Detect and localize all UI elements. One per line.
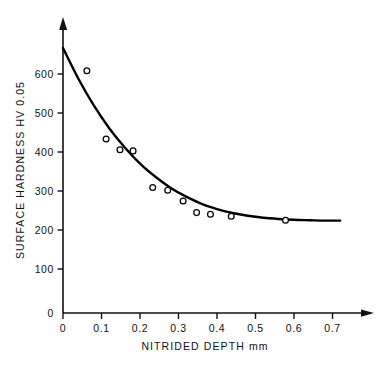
x-tick-label-0p7: 0.7	[324, 322, 340, 334]
data-point	[130, 148, 136, 154]
data-point	[150, 185, 156, 191]
data-point	[103, 136, 109, 142]
y-axis-title: SURFACE HARDNESS HV 0.05	[14, 81, 26, 259]
fitted-curve	[63, 48, 340, 221]
x-tick-label-0p6: 0.6	[286, 322, 302, 334]
y-axis-arrow-icon	[59, 17, 67, 30]
data-point	[84, 68, 90, 74]
x-axis-ticks	[63, 313, 333, 319]
x-tick-label-0p3: 0.3	[170, 322, 186, 334]
y-tick-label-0: 0	[48, 307, 54, 319]
x-tick-label-0p1: 0.1	[93, 322, 109, 334]
data-point	[180, 198, 186, 204]
data-point	[194, 210, 200, 216]
hardness-depth-chart: 600 500 400 300 200 100 0 0 0.1 0.2 0.3 …	[0, 0, 391, 366]
chart-plot-area: 600 500 400 300 200 100 0 0 0.1 0.2 0.3 …	[0, 0, 391, 366]
x-axis-title: NITRIDED DEPTH mm	[141, 340, 268, 352]
y-tick-label-600: 600	[35, 68, 54, 80]
y-tick-label-100: 100	[35, 263, 54, 275]
y-tick-label-200: 200	[35, 224, 54, 236]
y-tick-label-500: 500	[35, 107, 54, 119]
y-axis-ticks	[58, 74, 64, 269]
x-tick-label-0p5: 0.5	[247, 322, 263, 334]
data-point	[283, 217, 289, 223]
x-tick-label-0p4: 0.4	[209, 322, 225, 334]
x-tick-label-0p2: 0.2	[132, 322, 148, 334]
data-point	[165, 187, 171, 193]
data-point-group	[84, 68, 288, 223]
data-point	[117, 147, 123, 153]
data-point	[228, 213, 234, 219]
y-tick-label-400: 400	[35, 146, 54, 158]
y-tick-label-300: 300	[35, 185, 54, 197]
x-axis-arrow-icon	[361, 309, 374, 316]
x-tick-label-0: 0	[60, 322, 66, 334]
data-point	[208, 211, 214, 217]
